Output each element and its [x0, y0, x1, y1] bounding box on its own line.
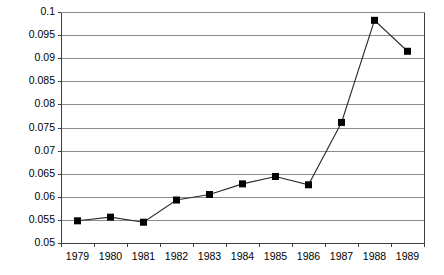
x-axis-tick-label: 1986 — [297, 250, 321, 262]
x-axis-tick-label: 1985 — [264, 250, 288, 262]
x-axis-tick-label: 1979 — [66, 250, 90, 262]
y-axis-tick-label: 0.09 — [35, 51, 56, 63]
y-axis-tick-label: 0.1 — [40, 5, 55, 17]
y-axis-tick-label: 0.06 — [35, 190, 56, 202]
data-point-marker — [173, 197, 180, 204]
x-axis-tick-label: 1983 — [198, 250, 222, 262]
y-axis-tick-label: 0.075 — [29, 121, 55, 133]
data-point-marker — [404, 48, 411, 55]
x-axis-tick-label: 1980 — [99, 250, 123, 262]
y-axis-tick-label: 0.095 — [29, 28, 55, 40]
x-axis-tick-label: 1981 — [132, 250, 156, 262]
chart-background — [0, 0, 444, 275]
y-axis-tick-label: 0.05 — [35, 236, 56, 248]
data-point-marker — [338, 119, 345, 126]
y-axis-tick-label: 0.08 — [35, 97, 56, 109]
y-axis-tick-label: 0.07 — [35, 144, 56, 156]
x-axis-tick-labels: 1979198019811982198319841985198619871988… — [66, 250, 420, 262]
x-axis-tick-label: 1988 — [363, 250, 387, 262]
data-point-marker — [272, 173, 279, 180]
x-axis-tick-label: 1982 — [165, 250, 189, 262]
data-point-marker — [140, 219, 147, 226]
line-chart: 0.050.0550.060.0650.070.0750.080.0850.09… — [0, 0, 444, 275]
x-axis-tick-label: 1987 — [330, 250, 354, 262]
x-axis-tick-label: 1989 — [396, 250, 420, 262]
data-point-marker — [371, 17, 378, 24]
y-axis-tick-label: 0.065 — [29, 167, 55, 179]
x-axis-tick-label: 1984 — [231, 250, 255, 262]
y-axis-tick-label: 0.085 — [29, 74, 55, 86]
data-point-marker — [305, 181, 312, 188]
data-point-marker — [107, 214, 114, 221]
y-axis-tick-label: 0.055 — [29, 213, 55, 225]
data-point-marker — [74, 217, 81, 224]
data-point-marker — [239, 180, 246, 187]
data-point-marker — [206, 191, 213, 198]
chart-canvas: 0.050.0550.060.0650.070.0750.080.0850.09… — [0, 0, 444, 275]
